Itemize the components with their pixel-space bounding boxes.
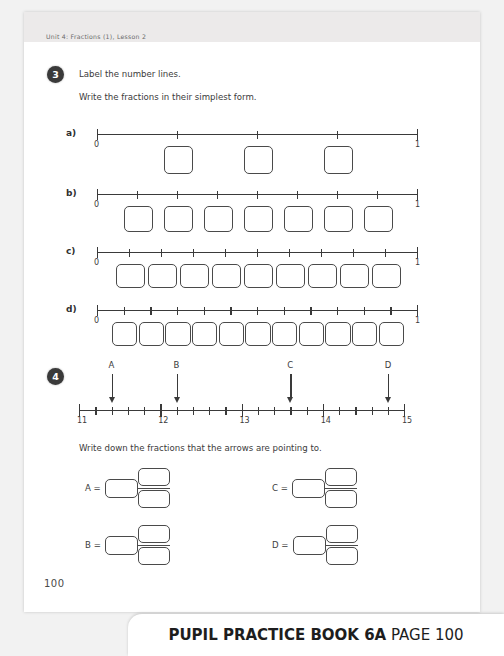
fraction-answer-box[interactable] <box>324 206 353 232</box>
number-line-label: a) <box>66 128 76 138</box>
fraction-bar <box>138 545 170 546</box>
q4-axis-label: 13 <box>240 416 250 425</box>
q4-minor-tick <box>258 407 259 415</box>
axis-tick <box>321 249 322 257</box>
fraction-answer-box[interactable] <box>340 264 369 288</box>
axis-tick <box>230 307 231 315</box>
axis-tick <box>289 249 290 257</box>
answer-slot-letter: C = <box>272 483 288 493</box>
fraction-answer-box[interactable] <box>164 206 193 232</box>
q4-minor-tick <box>307 407 308 415</box>
fraction-answer-box[interactable] <box>244 264 273 288</box>
fraction-answer-box[interactable] <box>212 264 241 288</box>
axis-tick <box>297 191 298 199</box>
axis-tick <box>137 191 138 199</box>
axis-tick <box>97 129 98 140</box>
q4-minor-tick <box>274 407 275 415</box>
fraction-answer-box[interactable] <box>364 206 393 232</box>
fraction-answer-box[interactable] <box>164 146 193 174</box>
axis-tick <box>97 247 98 258</box>
fraction-answer-box[interactable] <box>308 264 337 288</box>
fraction-answer-box[interactable] <box>139 322 164 346</box>
fraction-answer-box[interactable] <box>352 322 377 346</box>
answer-slot-letter: B = <box>85 540 101 550</box>
denominator-input-box[interactable] <box>326 547 358 565</box>
denominator-input-box[interactable] <box>138 490 170 508</box>
q4-minor-tick <box>339 407 340 415</box>
axis-tick <box>177 307 178 315</box>
fraction-answer-box[interactable] <box>272 322 297 346</box>
paper-sheet <box>24 12 480 612</box>
fraction-answer-box[interactable] <box>324 146 353 174</box>
arrow-label-D: D <box>385 360 392 370</box>
fraction-answer-box[interactable] <box>124 206 153 232</box>
axis-tick <box>97 189 98 200</box>
whole-number-input-box[interactable] <box>292 479 325 498</box>
footer-banner: PUPIL PRACTICE BOOK 6A PAGE 100 <box>128 614 504 656</box>
fraction-answer-box[interactable] <box>112 322 137 346</box>
axis-tick <box>204 307 205 315</box>
axis-end-label: 1 <box>415 316 420 325</box>
answer-slot-B: B = <box>85 525 170 565</box>
fraction-answer-box[interactable] <box>325 322 350 346</box>
question-3-instruction-1: Label the number lines. <box>79 69 181 79</box>
fraction-answer-box[interactable] <box>192 322 217 346</box>
answer-slot-C: C = <box>272 468 357 508</box>
fraction-answer-box[interactable] <box>148 264 177 288</box>
q4-minor-tick <box>290 407 291 415</box>
numerator-input-box[interactable] <box>326 525 358 543</box>
axis-tick <box>417 247 418 258</box>
denominator-input-box[interactable] <box>325 490 357 508</box>
axis-tick <box>417 189 418 200</box>
number-line-label: b) <box>66 188 77 198</box>
fraction-answer-box[interactable] <box>165 322 190 346</box>
axis-tick <box>193 249 194 257</box>
axis-start-label: 0 <box>94 140 99 149</box>
arrow-head-D <box>385 397 391 403</box>
q4-minor-tick <box>177 407 178 415</box>
denominator-input-box[interactable] <box>138 547 170 565</box>
fraction-answer-box[interactable] <box>276 264 305 288</box>
axis-tick <box>337 307 338 315</box>
q4-minor-tick <box>128 407 129 415</box>
arrow-label-C: C <box>287 360 293 370</box>
axis-tick <box>417 305 418 316</box>
fraction-answer-box[interactable] <box>244 146 273 174</box>
unit-header-text: Unit 4: Fractions (1), Lesson 2 <box>46 33 146 40</box>
whole-number-input-box[interactable] <box>105 479 138 498</box>
answer-slot-letter: A = <box>85 483 101 493</box>
fraction-answer-box[interactable] <box>116 264 145 288</box>
numerator-input-box[interactable] <box>138 468 170 486</box>
axis-tick <box>417 129 418 140</box>
whole-number-input-box[interactable] <box>293 536 326 555</box>
fraction-answer-box[interactable] <box>372 264 401 288</box>
whole-number-input-box[interactable] <box>105 536 138 555</box>
axis-start-label: 0 <box>94 316 99 325</box>
fraction-stack <box>138 525 170 565</box>
arrow-shaft-C <box>290 374 292 398</box>
arrow-head-B <box>174 397 180 403</box>
numerator-input-box[interactable] <box>138 525 170 543</box>
fraction-answer-box[interactable] <box>379 322 404 346</box>
question-4-number-line: 1112131415ABCD <box>79 360 424 432</box>
axis-tick <box>124 307 125 315</box>
numerator-input-box[interactable] <box>325 468 357 486</box>
axis-tick <box>257 249 258 257</box>
fraction-answer-box[interactable] <box>204 206 233 232</box>
question-3-instruction-2: Write the fractions in their simplest fo… <box>79 92 257 102</box>
fraction-answer-box[interactable] <box>299 322 324 346</box>
q4-minor-tick <box>95 407 96 415</box>
q4-minor-tick <box>112 407 113 415</box>
fraction-answer-box[interactable] <box>244 206 273 232</box>
q4-minor-tick <box>193 407 194 415</box>
fraction-answer-box[interactable] <box>219 322 244 346</box>
axis-end-label: 1 <box>415 200 420 209</box>
footer-banner-text: PUPIL PRACTICE BOOK 6A PAGE 100 <box>168 626 463 644</box>
fraction-answer-box[interactable] <box>245 322 270 346</box>
fraction-answer-box[interactable] <box>284 206 313 232</box>
axis-tick <box>150 307 151 315</box>
fraction-answer-box[interactable] <box>180 264 209 288</box>
axis-tick <box>217 191 218 199</box>
answer-slot-letter: D = <box>272 540 289 550</box>
axis-end-label: 1 <box>415 258 420 267</box>
